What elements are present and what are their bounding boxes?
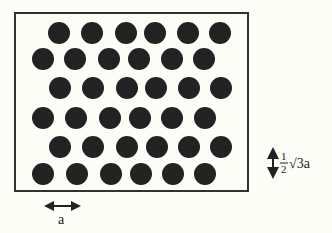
- lattice-atom: [210, 77, 232, 99]
- lattice-atom: [116, 136, 138, 158]
- lattice-atom: [146, 136, 168, 158]
- lattice-atom: [64, 48, 86, 70]
- lattice-atom: [178, 136, 200, 158]
- lattice-atom: [162, 163, 184, 185]
- vertical-spacing-arrow: [267, 147, 279, 179]
- lattice-atom: [193, 48, 215, 70]
- lattice-atom: [82, 77, 104, 99]
- lattice-atom: [177, 22, 199, 44]
- lattice-atom: [98, 48, 120, 70]
- lattice-atom: [82, 136, 104, 158]
- lattice-atom: [116, 77, 138, 99]
- lattice-atom: [209, 22, 231, 44]
- lattice-diagram: a 1 2 √3a: [0, 0, 332, 233]
- lattice-atom: [128, 48, 150, 70]
- vertical-spacing-label: 1 2 √3a: [280, 150, 311, 175]
- lattice-atom: [144, 22, 166, 44]
- lattice-atom: [194, 107, 216, 129]
- lattice-atom: [210, 136, 232, 158]
- lattice-atom: [99, 107, 121, 129]
- lattice-atom: [81, 22, 103, 44]
- lattice-atom: [66, 163, 88, 185]
- lattice-atom: [32, 48, 54, 70]
- lattice-atom: [145, 77, 167, 99]
- lattice-atom: [129, 107, 151, 129]
- lattice-atom: [48, 22, 70, 44]
- lattice-atom: [100, 163, 122, 185]
- lattice-atom: [178, 77, 200, 99]
- horizontal-spacing-arrow: [44, 201, 81, 211]
- lattice-atom: [49, 77, 71, 99]
- lattice-atom: [65, 107, 87, 129]
- svg-text:√3a: √3a: [289, 156, 311, 171]
- lattice-atom: [32, 107, 54, 129]
- lattice-atom: [115, 22, 137, 44]
- lattice-atom: [161, 107, 183, 129]
- horizontal-spacing-label: a: [58, 212, 65, 227]
- lattice-atom: [49, 136, 71, 158]
- svg-text:1: 1: [281, 150, 287, 162]
- lattice-atom: [130, 163, 152, 185]
- svg-text:2: 2: [281, 163, 287, 175]
- lattice-atom: [161, 48, 183, 70]
- lattice-atom: [194, 163, 216, 185]
- lattice-atom: [32, 163, 54, 185]
- lattice-circles: [32, 22, 232, 185]
